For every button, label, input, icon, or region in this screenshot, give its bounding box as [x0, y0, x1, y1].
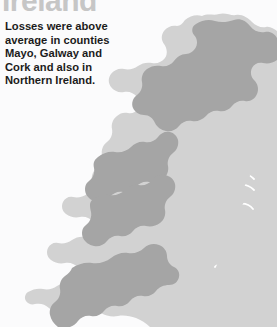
page-title: Ireland	[2, 0, 97, 18]
caption-line: Losses were above	[5, 20, 143, 34]
caption-text: Losses were above average in counties Ma…	[5, 20, 143, 88]
caption-line: Northern Ireland.	[5, 74, 143, 88]
ireland-losses-map-panel: Ireland Losses were above average in cou…	[0, 0, 277, 327]
caption-line: Mayo, Galway and	[5, 47, 143, 61]
caption-line: Cork and also in	[5, 61, 143, 75]
caption-line: average in counties	[5, 34, 143, 48]
